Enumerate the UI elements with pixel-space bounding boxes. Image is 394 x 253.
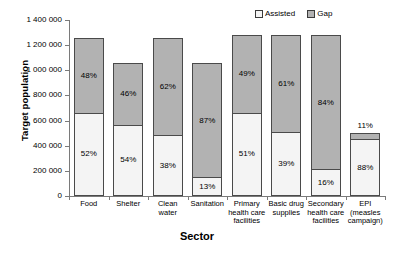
x-tick-mark [227, 196, 228, 200]
legend-swatch-gap [307, 10, 315, 18]
bar-segment-assisted: 54% [113, 126, 143, 196]
y-tick-label: 0 [6, 192, 62, 200]
bar-segment-assisted: 51% [232, 114, 262, 196]
x-category-label: EPI (measles campaign) [346, 200, 386, 226]
bar-segment-assisted-label: 51% [239, 150, 255, 158]
y-tick-label: 400 000 [6, 142, 62, 150]
x-tick-mark [188, 196, 189, 200]
stacked-bar: 87%13% [192, 63, 222, 196]
stacked-bar: 49%51% [232, 35, 262, 196]
bar-segment-assisted: 13% [192, 178, 222, 196]
bar-segment-gap: 49% [232, 35, 262, 114]
y-tick-mark [65, 70, 69, 71]
bar-segment-assisted-label: 38% [160, 162, 176, 170]
bar-segment-assisted-label: 88% [357, 164, 373, 172]
y-tick-mark [65, 171, 69, 172]
x-tick-mark [346, 196, 347, 200]
stacked-bar: 62%38% [153, 38, 183, 196]
stacked-bar: 48%52% [74, 38, 104, 196]
chart-legend: Assisted Gap [255, 10, 332, 18]
bar-segment-assisted-label: 13% [199, 183, 215, 191]
y-tick-label: 800 000 [6, 91, 62, 99]
legend-entry-gap: Gap [307, 10, 332, 18]
chart-container: Assisted Gap Target population Sector 1 … [0, 0, 394, 253]
bar-segment-assisted: 52% [74, 114, 104, 196]
bar-segment-assisted: 16% [311, 170, 341, 196]
bar-segment-assisted-label: 52% [81, 150, 97, 158]
y-tick-mark [65, 20, 69, 21]
legend-swatch-assisted [255, 10, 263, 18]
x-tick-mark [69, 196, 70, 200]
x-category-label: Food [69, 200, 109, 209]
y-tick-label: 1 400 000 [6, 16, 62, 24]
y-tick-label: 1 000 000 [6, 66, 62, 74]
x-category-label: Clean water [148, 200, 188, 217]
x-axis-title: Sector [0, 230, 394, 242]
bar-segment-gap-label: 84% [318, 99, 334, 107]
bar-segment-gap-label: 11% [358, 122, 373, 130]
legend-label-gap: Gap [317, 10, 332, 18]
x-tick-mark [267, 196, 268, 200]
x-tick-mark [385, 196, 386, 200]
bar-segment-gap: 61% [271, 35, 301, 133]
x-category-label: Secondary health care facilities [306, 200, 346, 226]
bar-segment-gap-label: 62% [160, 83, 176, 91]
y-tick-mark [65, 121, 69, 122]
x-category-label: Sanitation [188, 200, 228, 209]
x-tick-mark [109, 196, 110, 200]
bar-segment-gap-label: 49% [239, 70, 255, 78]
stacked-bar: 84%16% [311, 35, 341, 196]
bar-segment-assisted-label: 54% [120, 156, 136, 164]
stacked-bar: 46%54% [113, 63, 143, 196]
bar-segment-gap-label: 61% [278, 80, 294, 88]
stacked-bar: 61%39% [271, 35, 301, 196]
y-tick-mark [65, 95, 69, 96]
bar-segment-assisted-label: 16% [318, 179, 334, 187]
bar-segment-assisted: 38% [153, 136, 183, 196]
y-axis-line [69, 20, 70, 197]
y-tick-mark [65, 45, 69, 46]
x-category-label: Basic drug supplies [267, 200, 307, 217]
bar-segment-gap: 11% [350, 133, 380, 140]
stacked-bar: 11%88% [350, 133, 380, 196]
x-tick-mark [148, 196, 149, 200]
legend-entry-assisted: Assisted [255, 10, 295, 18]
legend-label-assisted: Assisted [265, 10, 295, 18]
bar-segment-gap: 84% [311, 35, 341, 170]
bar-segment-gap: 46% [113, 63, 143, 126]
bar-segment-assisted-label: 39% [278, 160, 294, 168]
x-category-label: Shelter [109, 200, 149, 209]
y-tick-label: 200 000 [6, 167, 62, 175]
bar-segment-gap: 48% [74, 38, 104, 114]
bar-segment-gap-label: 46% [120, 90, 136, 98]
bar-segment-gap: 87% [192, 63, 222, 179]
y-tick-label: 600 000 [6, 117, 62, 125]
bar-segment-gap-label: 87% [199, 117, 215, 125]
y-tick-mark [65, 146, 69, 147]
x-category-label: Primary health care facilities [227, 200, 267, 226]
x-tick-mark [306, 196, 307, 200]
bar-segment-gap-label: 48% [81, 72, 97, 80]
bar-segment-assisted: 39% [271, 133, 301, 196]
y-tick-label: 1 200 000 [6, 41, 62, 49]
bar-segment-gap: 62% [153, 38, 183, 137]
bar-segment-assisted: 88% [350, 140, 380, 196]
